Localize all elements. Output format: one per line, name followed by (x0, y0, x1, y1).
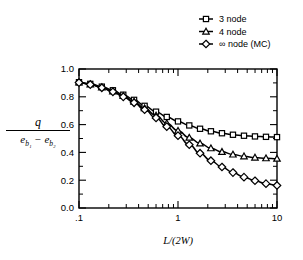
marker-square (241, 133, 246, 138)
legend-item-1[interactable]: 3 node (199, 14, 247, 24)
marker-square (175, 119, 180, 124)
legend-item-2[interactable]: 4 node (199, 27, 247, 37)
x-axis-label: L/(2W) (79, 235, 277, 246)
marker-square (208, 129, 213, 134)
marker-triangle (203, 28, 210, 34)
marker-triangle (252, 154, 258, 160)
denominator-minus: − (34, 133, 41, 145)
y-tick-label: 1.0 (61, 63, 74, 74)
legend-label: ∞ node (MC) (219, 39, 270, 49)
y-tick-label: 0.2 (61, 175, 74, 186)
marker-diamond (218, 163, 226, 171)
marker-square (252, 134, 257, 139)
y-axis-label-denominator: eb₁ − eb₂ (2, 131, 74, 151)
series-diamond (75, 79, 281, 189)
marker-diamond (229, 169, 237, 177)
marker-diamond (273, 182, 281, 190)
data-series (75, 79, 281, 189)
legend-label: 4 node (219, 27, 247, 37)
x-tick-label: 1 (175, 212, 180, 223)
chart-figure: .11100.00.20.40.60.81.0 3 node4 node∞ no… (0, 0, 303, 260)
marker-triangle (241, 153, 248, 159)
marker-square (263, 134, 268, 139)
marker-triangle (263, 155, 270, 161)
legend-label: 3 node (219, 14, 247, 24)
marker-triangle (274, 155, 281, 161)
marker-square (197, 126, 202, 131)
marker-triangle (186, 134, 193, 140)
marker-triangle (219, 149, 226, 155)
marker-diamond (196, 149, 204, 157)
y-axis-label: q eb₁ − eb₂ (2, 116, 74, 151)
marker-diamond (240, 173, 248, 181)
x-tick-label: .1 (75, 212, 83, 223)
denominator-sub-a: b₁ (25, 139, 31, 148)
marker-square (219, 131, 224, 136)
marker-triangle (197, 140, 204, 146)
marker-diamond (251, 177, 259, 185)
y-tick-label: 0.0 (61, 202, 74, 213)
y-axis-label-numerator: q (2, 116, 74, 130)
legend-item-3[interactable]: ∞ node (MC) (199, 39, 270, 49)
chart-legend: 3 node4 node∞ node (MC) (199, 14, 270, 49)
marker-diamond (262, 180, 270, 188)
marker-triangle (230, 151, 237, 157)
marker-square (187, 123, 192, 128)
marker-square (203, 16, 208, 21)
marker-square (274, 135, 279, 140)
denominator-sub-b: b₂ (49, 139, 55, 148)
x-tick-label: 10 (272, 212, 283, 223)
marker-triangle (208, 145, 215, 151)
y-tick-label: 0.8 (61, 91, 74, 102)
marker-square (230, 132, 235, 137)
marker-diamond (207, 157, 215, 165)
marker-diamond (186, 141, 194, 149)
marker-diamond (202, 40, 210, 48)
